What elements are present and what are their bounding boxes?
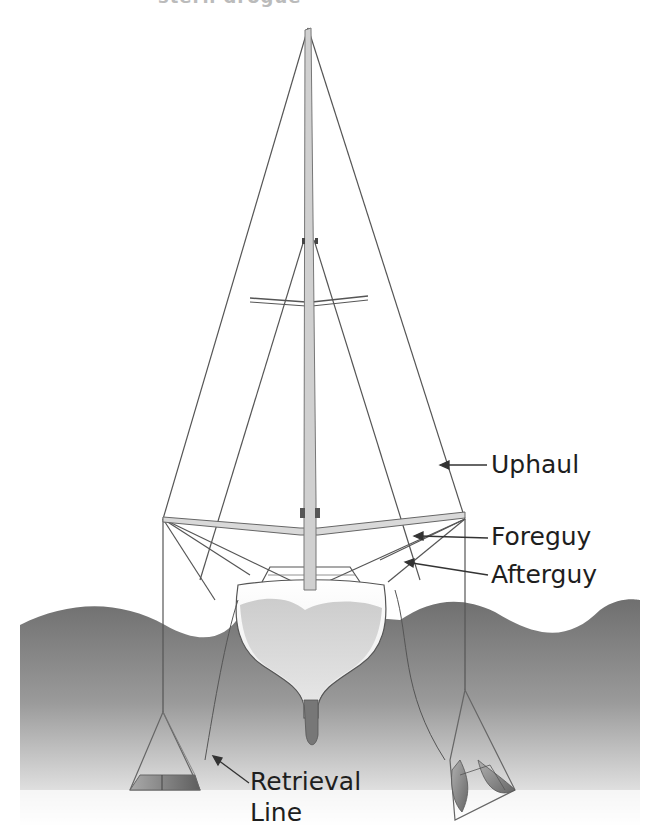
foreguy-label: Foreguy (491, 522, 591, 552)
afterguy-label: Afterguy (491, 560, 597, 590)
mast (300, 28, 320, 590)
retrieval-line-label-2: Line (250, 798, 302, 828)
sailboat-drogue-diagram (0, 0, 654, 828)
retrieval-line-label-1: Retrieval (250, 767, 361, 797)
uphaul-label: Uphaul (491, 450, 579, 480)
